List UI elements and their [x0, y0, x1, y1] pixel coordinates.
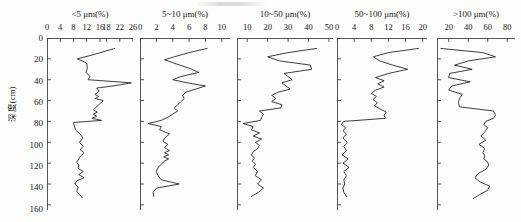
x-tick-label: 4: [352, 23, 356, 32]
plot-area: [47, 38, 133, 214]
x-tick-label: 22: [116, 23, 125, 32]
panel-title: 5~10 μm(%): [140, 10, 230, 19]
panel-5: >100 μm(%)20406080: [437, 38, 515, 214]
x-tick-label: 26: [129, 23, 138, 32]
scan-artifact: [196, 2, 266, 6]
data-curve: [441, 48, 496, 198]
x-axis-tick-labels: 20406080: [437, 23, 515, 34]
x-tick-label: 40: [464, 23, 473, 32]
panel-1: <5 μm(%)0481216182226: [47, 38, 133, 214]
depth-tick-label: 140: [30, 183, 44, 192]
depth-axis: 深度(cm) 020406080100120140160: [0, 38, 46, 214]
plot-area: [237, 38, 333, 214]
x-tick-label: 50: [325, 23, 334, 32]
x-tick-label: 40: [304, 23, 313, 32]
panel-title: <5 μm(%): [47, 10, 133, 19]
grain-size-depth-profile-figure: 深度(cm) 020406080100120140160 <5 μm(%)048…: [0, 0, 521, 222]
x-tick-label: 12: [384, 23, 393, 32]
x-tick-label: 60: [483, 23, 492, 32]
depth-tick-label: 40: [34, 76, 43, 85]
x-tick-label: 6: [187, 23, 191, 32]
x-tick-label: 8: [369, 23, 373, 32]
data-curve: [148, 48, 207, 196]
x-axis-tick-labels: 0481216182226: [47, 23, 133, 34]
depth-tick-label: 0: [39, 34, 44, 43]
panel-title: 10~50 μm(%): [237, 10, 333, 19]
depth-tick-label: 60: [34, 98, 43, 107]
x-tick-label: 12: [82, 23, 91, 32]
x-axis-tick-labels: 048121620: [337, 23, 427, 34]
x-tick-label: 10: [218, 23, 227, 32]
x-tick-label: 10: [243, 23, 252, 32]
depth-tick-label: 160: [30, 204, 44, 213]
plot-area: [337, 38, 427, 214]
panel-title: >100 μm(%): [437, 10, 515, 19]
x-tick-label: 4: [58, 23, 62, 32]
plot-area: [140, 38, 230, 214]
panel-4: 50~100 μm(%)048121620: [337, 38, 427, 214]
depth-tick-label: 100: [30, 140, 44, 149]
data-curve: [243, 48, 317, 196]
panel-title: 50~100 μm(%): [337, 10, 427, 19]
x-tick-label: 2: [154, 23, 158, 32]
x-tick-label: 0: [45, 23, 49, 32]
x-tick-label: 0: [138, 23, 142, 32]
depth-tick-label: 20: [34, 55, 43, 64]
panel-3: 10~50 μm(%)1020304050: [237, 38, 333, 214]
x-tick-label: 0: [335, 23, 339, 32]
data-curve: [341, 48, 418, 196]
x-tick-label: 8: [203, 23, 207, 32]
x-tick-label: 16: [401, 23, 410, 32]
data-curve: [73, 48, 131, 197]
plot-area: [437, 38, 515, 214]
x-tick-label: 20: [263, 23, 272, 32]
depth-tick-label: 80: [34, 119, 43, 128]
depth-tick-label: 120: [30, 162, 44, 171]
x-tick-label: 20: [418, 23, 427, 32]
x-tick-label: 30: [284, 23, 293, 32]
x-axis-tick-labels: 0246810: [140, 23, 230, 34]
depth-axis-label: 深度(cm): [5, 76, 17, 132]
x-tick-label: 8: [71, 23, 75, 32]
x-tick-label: 80: [503, 23, 512, 32]
x-tick-label: 20: [444, 23, 453, 32]
panel-2: 5~10 μm(%)0246810: [140, 38, 230, 214]
x-tick-label: 4: [171, 23, 175, 32]
x-axis-tick-labels: 1020304050: [237, 23, 333, 34]
x-tick-label: 18: [102, 23, 111, 32]
